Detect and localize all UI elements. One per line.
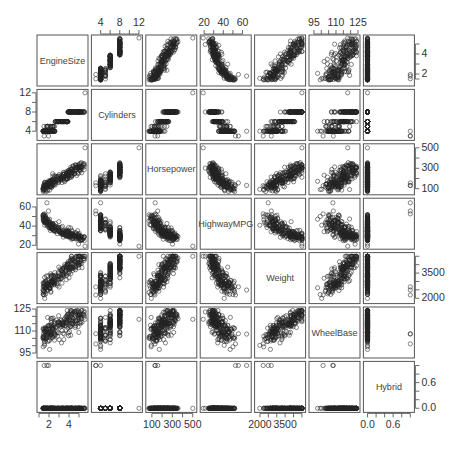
axis-tick-label: 0.6 <box>421 376 436 388</box>
axis-tick-label: 300 <box>421 161 439 173</box>
axis-tick-label: 0.0 <box>421 401 436 413</box>
axis-tick-label: 8 <box>0 105 31 117</box>
panel-EngineSize-vs-Cylinders <box>91 35 142 86</box>
panel-Horsepower-vs-HighwayMPG <box>200 144 251 195</box>
axis-tick-label: 40 <box>0 219 31 231</box>
panel-HighwayMPG-vs-Horsepower <box>146 198 197 249</box>
axis-tick-label: 2000 <box>421 291 444 303</box>
axis-tick-label: 4 <box>0 124 31 136</box>
variable-label: Hybrid <box>363 361 414 412</box>
panel-Hybrid-vs-Weight <box>255 361 306 412</box>
axis-tick-label: 12 <box>0 86 31 98</box>
panel-EngineSize-vs-Weight <box>255 35 306 86</box>
panel-Cylinders-vs-WheelBase <box>309 89 360 140</box>
panel-Weight-vs-Cylinders <box>91 253 142 304</box>
panel-WheelBase-vs-Hybrid <box>363 307 414 358</box>
panel-WheelBase-vs-HighwayMPG <box>200 307 251 358</box>
panel-Cylinders-vs-Hybrid <box>363 89 414 140</box>
axis-tick-label: 125 <box>338 16 378 28</box>
axis-tick-label: 3500 <box>421 266 444 278</box>
panel-Weight-vs-HighwayMPG <box>200 253 251 304</box>
variable-label: HighwayMPG <box>200 198 251 249</box>
variable-label: Weight <box>255 253 306 304</box>
panel-EngineSize-vs-Hybrid <box>363 35 414 86</box>
panel-Hybrid-vs-Horsepower <box>146 361 197 412</box>
variable-label: Cylinders <box>91 89 142 140</box>
panel-EngineSize-vs-Horsepower <box>146 35 197 86</box>
variable-label: EngineSize <box>37 35 88 86</box>
panel-HighwayMPG-vs-Weight <box>255 198 306 249</box>
panel-Horsepower-vs-EngineSize <box>37 144 88 195</box>
variable-label: Horsepower <box>146 144 197 195</box>
axis-tick-label: 3500 <box>265 418 305 430</box>
axis-tick-label: 4 <box>421 47 427 59</box>
axis-tick-label: 0.6 <box>373 418 413 430</box>
panel-Cylinders-vs-HighwayMPG <box>200 89 251 140</box>
variable-label: WheelBase <box>309 307 360 358</box>
panel-Cylinders-vs-Horsepower <box>146 89 197 140</box>
panel-EngineSize-vs-HighwayMPG <box>200 35 251 86</box>
panel-Hybrid-vs-HighwayMPG <box>200 361 251 412</box>
panel-Cylinders-vs-EngineSize <box>37 89 88 140</box>
axis-tick-label: 12 <box>119 16 159 28</box>
axis-tick-label: 110 <box>0 324 31 336</box>
panel-WheelBase-vs-EngineSize <box>37 307 88 358</box>
panel-WheelBase-vs-Horsepower <box>146 307 197 358</box>
axis-tick-label: 100 <box>421 182 439 194</box>
axis-tick-label: 95 <box>0 346 31 358</box>
panel-EngineSize-vs-WheelBase <box>309 35 360 86</box>
panel-HighwayMPG-vs-WheelBase <box>309 198 360 249</box>
panel-Weight-vs-WheelBase <box>309 253 360 304</box>
axis-tick-label: 2 <box>421 67 427 79</box>
axis-tick-label: 20 <box>0 238 31 250</box>
panel-HighwayMPG-vs-Cylinders <box>91 198 142 249</box>
axis-tick-label: 4 <box>49 418 89 430</box>
panel-Hybrid-vs-Cylinders <box>91 361 142 412</box>
panel-Weight-vs-EngineSize <box>37 253 88 304</box>
axis-tick-label: 500 <box>421 141 439 153</box>
panel-WheelBase-vs-Weight <box>255 307 306 358</box>
panel-Horsepower-vs-Weight <box>255 144 306 195</box>
panel-Weight-vs-Hybrid <box>363 253 414 304</box>
panel-Horsepower-vs-Hybrid <box>363 144 414 195</box>
panel-Hybrid-vs-WheelBase <box>309 361 360 412</box>
panel-Hybrid-vs-EngineSize <box>37 361 88 412</box>
axis-tick-label: 125 <box>0 302 31 314</box>
panel-Horsepower-vs-WheelBase <box>309 144 360 195</box>
panel-HighwayMPG-vs-Hybrid <box>363 198 414 249</box>
panel-Cylinders-vs-Weight <box>255 89 306 140</box>
axis-tick-label: 60 <box>0 200 31 212</box>
panel-Weight-vs-Horsepower <box>146 253 197 304</box>
axis-tick-label: 60 <box>222 16 262 28</box>
panel-WheelBase-vs-Cylinders <box>91 307 142 358</box>
panel-HighwayMPG-vs-EngineSize <box>37 198 88 249</box>
axis-tick-label: 500 <box>173 418 213 430</box>
panel-Horsepower-vs-Cylinders <box>91 144 142 195</box>
